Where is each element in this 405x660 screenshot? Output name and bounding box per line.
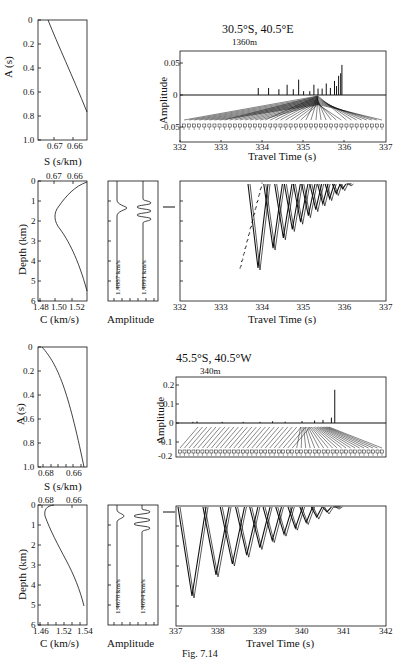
p2-a-xtick: 0.66 <box>66 468 82 478</box>
p2-a-profile-frame <box>38 347 87 467</box>
p1-c-ytick: 0 <box>31 176 36 186</box>
p1-trace-ytick: 0 <box>173 90 178 100</box>
p1-c-ytick: 3 <box>31 236 36 246</box>
p2-c-ytick: 2 <box>31 540 36 550</box>
p1-arrivals-xtick: 335 <box>297 302 311 312</box>
p2-a-xtick: 0.68 <box>38 468 54 478</box>
p2-a-xlabel: S (s/km) <box>44 480 82 492</box>
p2-a-ytick: 0.4 <box>23 390 34 400</box>
p2-arrivals-xtick: 340 <box>295 626 309 636</box>
p1-ray-labels-fan <box>184 96 382 120</box>
p1-trace-xtick: 337 <box>379 142 393 152</box>
p1-arrival-spikes <box>258 65 342 95</box>
p2-location-title: 45.5°S, 40.5°W <box>176 351 252 366</box>
p1-amp-xlabel: Amplitude <box>107 313 154 325</box>
p1-trace-frame <box>180 51 386 142</box>
p2-c-xlabel: C (km/s) <box>40 637 79 649</box>
p1-a-ytick: 0 <box>28 15 33 25</box>
p2-a-ytick: 0.2 <box>23 366 34 376</box>
p2-arrival-pattern <box>178 507 343 598</box>
p1-a-xlabel: S (s/km) <box>44 155 82 167</box>
p1-trace-xtick: 333 <box>214 142 228 152</box>
p1-a-ytick: 0.8 <box>23 111 34 121</box>
p2-trace-ytick: 0 <box>169 418 174 428</box>
p2-c-ylabel: Depth (km) <box>16 549 28 600</box>
p2-trace-ytick: 0.2 <box>163 380 174 390</box>
p1-trace-xlabel: Travel Time (s) <box>248 150 316 162</box>
p2-c-xtick: 1.46 <box>33 626 49 636</box>
p2-c-toptick: 0.66 <box>66 495 82 505</box>
p2-a-ytick: 0.8 <box>23 438 34 448</box>
p1-a-ytick: 0.2 <box>23 39 34 49</box>
p1-trace-xtick: 336 <box>338 142 352 152</box>
figure-canvas <box>0 0 405 660</box>
p1-c-toptick: 0.67 <box>46 171 62 181</box>
p1-c-profile-frame <box>38 181 87 301</box>
p2-a-profile-curve <box>42 347 84 467</box>
p1-c-toptick: 0.66 <box>67 171 83 181</box>
p2-arrivals-xtick: 337 <box>169 626 183 636</box>
p2-speed-right: 1.4694 km/s <box>139 579 147 614</box>
p1-arrivals-xlabel: Travel Time (s) <box>248 313 316 325</box>
p2-c-profile-frame <box>38 505 87 625</box>
p1-arrivals-frame <box>180 181 386 301</box>
p1-speed-right: 1.4891 km/s <box>140 260 148 295</box>
p1-c-profile-curve <box>55 182 87 291</box>
p2-c-ytick: 3 <box>31 560 36 570</box>
p1-a-ytick: 1.0 <box>23 135 34 145</box>
p1-c-ylabel: Depth (km) <box>16 224 28 275</box>
p1-trace-xtick: 332 <box>173 142 187 152</box>
p2-ray-labels-fan <box>180 427 382 448</box>
p2-a-ytick: 0.6 <box>23 414 34 424</box>
p2-ray-id-marks <box>179 450 384 456</box>
p1-arrivals-xtick: 332 <box>173 302 187 312</box>
p2-arrivals-xlabel: Travel Time (s) <box>246 637 314 649</box>
p2-arrivals-xtick: 339 <box>253 626 267 636</box>
p1-speed-left: 1.4887 km/s <box>114 260 122 295</box>
p2-arrivals-xtick: 342 <box>379 626 393 636</box>
p1-arrivals-xtick: 337 <box>379 302 393 312</box>
p1-c-xtick: 1.52 <box>69 302 85 312</box>
p1-arrival-pattern <box>239 182 353 270</box>
p2-arrival-spikes <box>193 390 335 423</box>
p1-trace-ytick: 0.05 <box>164 58 180 68</box>
p2-c-profile-curve <box>45 505 84 606</box>
p2-arrivals-xtick: 341 <box>337 626 351 636</box>
p1-a-ytick: 0.6 <box>23 87 34 97</box>
p1-depth-label: 1360m <box>232 37 257 47</box>
p2-trace-ytick: -0.1 <box>158 437 172 447</box>
p1-c-ytick: 5 <box>31 276 36 286</box>
p2-c-ytick: 0 <box>31 500 36 510</box>
p2-amp-xlabel: Amplitude <box>107 637 154 649</box>
p1-a-xtick: 0.66 <box>67 141 83 151</box>
p2-c-ytick: 1 <box>31 520 36 530</box>
p2-trace-ytick: 0.1 <box>163 399 174 409</box>
p2-arrivals-xtick: 338 <box>211 626 225 636</box>
p2-speed-left: 1.4678 km/s <box>114 579 122 614</box>
p1-a-profile-curve <box>48 20 87 112</box>
p1-ray-id-marks <box>183 124 384 130</box>
p2-a-ytick: 0 <box>28 342 33 352</box>
p1-arrivals-xtick: 336 <box>338 302 352 312</box>
p1-c-xtick: 1.50 <box>51 302 67 312</box>
p1-trace-ytick: -0.05 <box>161 122 180 132</box>
p1-c-ytick: 1 <box>31 196 36 206</box>
p1-a-ytick: 0.4 <box>23 63 34 73</box>
p1-c-xtick: 1.48 <box>33 302 49 312</box>
p1-a-profile-frame <box>38 20 87 140</box>
p1-location-title: 30.5°S, 40.5°E <box>222 22 294 37</box>
p1-c-xlabel: C (km/s) <box>40 313 79 325</box>
p1-arrivals-xtick: 333 <box>214 302 228 312</box>
p2-c-toptick: 0.68 <box>38 495 54 505</box>
p2-c-xtick: 1.54 <box>77 626 93 636</box>
p1-trace-ylabel: Amplitude <box>157 77 169 124</box>
p2-trace-ytick: -0.2 <box>158 451 172 461</box>
p1-arrivals-xtick: 334 <box>255 302 269 312</box>
p2-c-ytick: 4 <box>31 580 36 590</box>
figure-caption: Fig. 7.14 <box>182 648 218 659</box>
p1-a-ylabel: A (s) <box>2 56 14 78</box>
p2-a-ytick: 1.0 <box>23 462 34 472</box>
p2-depth-label: 340m <box>200 366 221 376</box>
p1-a-xtick: 0.67 <box>47 141 63 151</box>
p1-c-ytick: 2 <box>31 216 36 226</box>
